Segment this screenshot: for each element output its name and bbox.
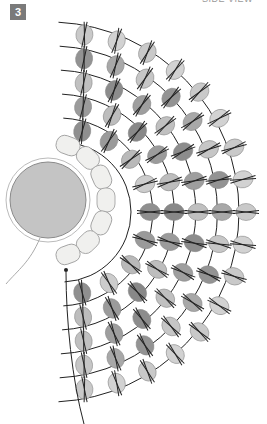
bead (219, 135, 249, 160)
bead (161, 339, 190, 370)
bead (184, 317, 215, 347)
bead (73, 93, 94, 121)
bead (177, 107, 208, 136)
bead (105, 368, 128, 398)
bead (168, 259, 199, 286)
beadwork-diagram (0, 0, 267, 424)
bead (161, 204, 187, 221)
bead (130, 172, 160, 197)
bead (74, 69, 94, 97)
bead (229, 169, 258, 190)
bead (127, 89, 156, 120)
bead (184, 77, 215, 107)
bead (142, 141, 173, 169)
bead (115, 144, 146, 174)
bead (150, 111, 181, 141)
bead (74, 327, 94, 355)
bead (137, 204, 163, 221)
bead (229, 234, 258, 255)
bead (142, 255, 173, 283)
bead (131, 330, 159, 361)
bead (74, 351, 94, 379)
bead (105, 26, 128, 56)
bead (209, 204, 235, 221)
bead (161, 54, 190, 85)
thread-tail (6, 238, 40, 284)
bead (168, 138, 199, 165)
bead (95, 268, 123, 299)
bead (134, 356, 161, 387)
bead (155, 170, 185, 194)
bead (155, 230, 185, 254)
bead (115, 250, 146, 280)
bead (130, 228, 160, 253)
bead (99, 100, 125, 131)
bead (127, 303, 156, 334)
start-point-dot (64, 268, 68, 272)
bead (219, 264, 249, 289)
bead (204, 169, 233, 191)
bead (177, 288, 208, 317)
bead (204, 233, 233, 255)
bead (95, 125, 123, 156)
bead (75, 21, 94, 48)
bead (180, 232, 209, 255)
bead (99, 293, 125, 324)
bead (74, 45, 94, 73)
bead (180, 170, 209, 193)
bead (103, 343, 127, 373)
bead (150, 283, 181, 313)
bead (72, 278, 93, 307)
bead (134, 37, 161, 68)
bead (73, 303, 94, 331)
central-disc (10, 162, 86, 238)
inner-bead (97, 188, 115, 212)
bead (185, 204, 211, 221)
bead (122, 116, 152, 147)
bead (122, 277, 152, 308)
bead (103, 51, 127, 81)
bead (233, 204, 259, 221)
bead (131, 63, 159, 94)
